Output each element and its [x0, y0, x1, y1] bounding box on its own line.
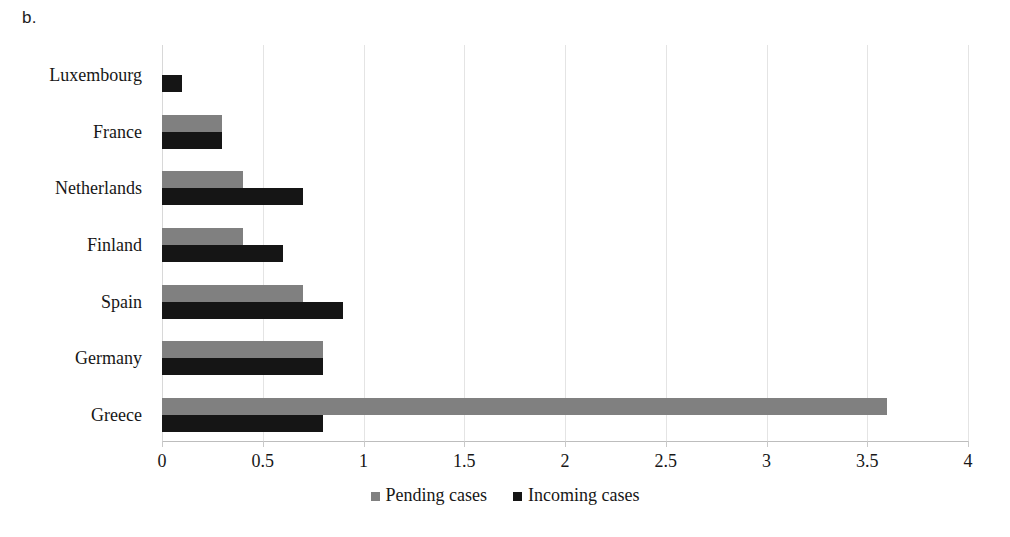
- category-label-greece: Greece: [91, 406, 142, 424]
- x-axis-ticks: [162, 441, 968, 447]
- chart-legend: Pending casesIncoming cases: [0, 484, 1010, 506]
- legend-entry[interactable]: Pending cases: [371, 484, 487, 506]
- x-axis-tick-label: 4: [964, 450, 973, 472]
- category-label-netherlands: Netherlands: [55, 179, 142, 197]
- x-axis-tick-label: 0: [158, 450, 167, 472]
- x-axis-tick: [565, 441, 566, 447]
- bar-group: [162, 58, 968, 92]
- panel-label: b.: [22, 8, 37, 28]
- bars-layer: [162, 45, 968, 441]
- x-axis-tick: [364, 441, 365, 447]
- legend-label: Incoming cases: [528, 484, 639, 506]
- bar-pending-cases: [162, 228, 243, 245]
- bar-incoming-cases: [162, 75, 182, 92]
- category-label-germany: Germany: [75, 349, 142, 367]
- x-axis-tick: [867, 441, 868, 447]
- gridline: [968, 45, 969, 441]
- bar-pending-cases: [162, 115, 222, 132]
- bar-group: [162, 285, 968, 319]
- bar-group: [162, 171, 968, 205]
- legend-swatch-icon: [371, 492, 380, 501]
- bar-group: [162, 341, 968, 375]
- x-axis-tick: [666, 441, 667, 447]
- category-label-finland: Finland: [87, 236, 142, 254]
- bar-incoming-cases: [162, 302, 343, 319]
- bar-incoming-cases: [162, 188, 303, 205]
- bar-group: [162, 228, 968, 262]
- legend-label: Pending cases: [386, 484, 487, 506]
- x-axis-tick-labels: 00.511.522.533.54: [0, 450, 1010, 476]
- x-axis-tick-label: 0.5: [252, 450, 275, 472]
- legend-entry[interactable]: Incoming cases: [513, 484, 639, 506]
- bar-group: [162, 398, 968, 432]
- category-label-france: France: [93, 123, 142, 141]
- legend-swatch-icon: [513, 492, 522, 501]
- x-axis-tick-label: 1.5: [453, 450, 476, 472]
- x-axis-tick: [464, 441, 465, 447]
- x-axis-tick-label: 3: [762, 450, 771, 472]
- bar-incoming-cases: [162, 132, 222, 149]
- x-axis-tick-label: 3.5: [856, 450, 879, 472]
- bar-group: [162, 115, 968, 149]
- category-label-spain: Spain: [101, 293, 142, 311]
- bar-pending-cases: [162, 398, 887, 415]
- figure-root: b. LuxembourgFranceNetherlandsFinlandSpa…: [0, 0, 1010, 537]
- x-axis-tick-label: 2.5: [655, 450, 678, 472]
- bar-incoming-cases: [162, 245, 283, 262]
- x-axis-tick-label: 1: [359, 450, 368, 472]
- plot-area: [162, 45, 968, 441]
- bar-incoming-cases: [162, 415, 323, 432]
- bar-incoming-cases: [162, 358, 323, 375]
- category-label-luxembourg: Luxembourg: [49, 66, 142, 84]
- x-axis-tick: [263, 441, 264, 447]
- x-axis-tick: [968, 441, 969, 447]
- x-axis-tick: [767, 441, 768, 447]
- x-axis-tick: [162, 441, 163, 447]
- bar-pending-cases: [162, 171, 243, 188]
- category-axis-labels: LuxembourgFranceNetherlandsFinlandSpainG…: [0, 45, 152, 441]
- bar-pending-cases: [162, 285, 303, 302]
- x-axis-tick-label: 2: [561, 450, 570, 472]
- bar-pending-cases: [162, 341, 323, 358]
